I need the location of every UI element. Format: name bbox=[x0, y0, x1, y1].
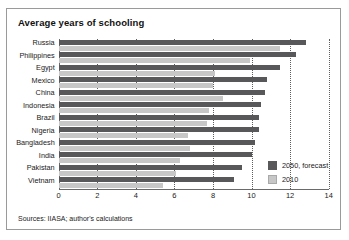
bar-row: China bbox=[59, 89, 329, 102]
bar-forecast-china bbox=[59, 90, 265, 95]
y-axis-label-indonesia: Indonesia bbox=[23, 101, 55, 110]
bar-baseline-bangladesh bbox=[59, 146, 190, 151]
y-axis-label-brazil: Brazil bbox=[36, 113, 54, 122]
bar-baseline-brazil bbox=[59, 121, 208, 126]
y-axis-label-russia: Russia bbox=[32, 38, 54, 47]
chart-figure: Average years of schooling RussiaPhilipp… bbox=[6, 8, 341, 230]
bar-row: Mexico bbox=[59, 77, 329, 90]
page-title: Average years of schooling bbox=[18, 17, 144, 28]
bar-forecast-russia bbox=[59, 40, 306, 45]
x-tick-label-0: 0 bbox=[57, 191, 61, 200]
x-tick-label-12: 12 bbox=[286, 191, 294, 200]
x-tick-label-2: 2 bbox=[95, 191, 99, 200]
legend-swatch-forecast-icon bbox=[268, 161, 277, 170]
bar-forecast-egypt bbox=[59, 65, 281, 70]
bar-baseline-pakistan bbox=[59, 171, 177, 176]
bar-forecast-bangladesh bbox=[59, 140, 256, 145]
y-axis-label-egypt: Egypt bbox=[36, 63, 55, 72]
bar-baseline-egypt bbox=[59, 71, 215, 76]
y-axis-label-bangladesh: Bangladesh bbox=[16, 138, 55, 147]
bar-row: Nigeria bbox=[59, 127, 329, 140]
bar-row: Bangladesh bbox=[59, 139, 329, 152]
bar-baseline-vietnam bbox=[59, 183, 163, 188]
bar-row: Egypt bbox=[59, 64, 329, 77]
bar-forecast-philippines bbox=[59, 52, 296, 57]
bar-row: Russia bbox=[59, 39, 329, 52]
legend-label-baseline: 2010 bbox=[282, 175, 298, 184]
bar-forecast-pakistan bbox=[59, 165, 242, 170]
x-tick-label-4: 4 bbox=[134, 191, 138, 200]
x-tick-label-14: 14 bbox=[325, 191, 333, 200]
bar-forecast-brazil bbox=[59, 115, 260, 120]
bar-baseline-mexico bbox=[59, 83, 213, 88]
x-tick-label-6: 6 bbox=[172, 191, 176, 200]
y-axis-label-india: India bbox=[39, 151, 55, 160]
bar-forecast-indonesia bbox=[59, 102, 262, 107]
x-axis-line bbox=[59, 189, 329, 190]
bar-row: Indonesia bbox=[59, 102, 329, 115]
bar-baseline-india bbox=[59, 158, 181, 163]
bar-baseline-russia bbox=[59, 46, 281, 51]
y-axis-label-pakistan: Pakistan bbox=[27, 163, 55, 172]
bar-row: Brazil bbox=[59, 114, 329, 127]
bar-forecast-vietnam bbox=[59, 177, 235, 182]
y-axis-label-vietnam: Vietnam bbox=[28, 176, 55, 185]
bar-baseline-nigeria bbox=[59, 133, 188, 138]
legend-item-baseline: 2010 bbox=[268, 175, 338, 184]
bar-forecast-nigeria bbox=[59, 127, 260, 132]
chart-legend: 2050, forecast 2010 bbox=[268, 161, 338, 189]
y-axis-label-china: China bbox=[36, 88, 55, 97]
scan-edge-artifact bbox=[0, 0, 349, 6]
legend-item-forecast: 2050, forecast bbox=[268, 161, 338, 170]
legend-label-forecast: 2050, forecast bbox=[282, 161, 328, 170]
y-axis-label-nigeria: Nigeria bbox=[32, 126, 55, 135]
x-tick-label-8: 8 bbox=[211, 191, 215, 200]
bar-baseline-philippines bbox=[59, 58, 250, 63]
y-axis-label-philippines: Philippines bbox=[19, 51, 54, 60]
bar-forecast-mexico bbox=[59, 77, 267, 82]
x-axis-ticks: 02468101214 bbox=[59, 191, 329, 203]
y-axis-label-mexico: Mexico bbox=[32, 76, 55, 85]
bar-baseline-indonesia bbox=[59, 108, 209, 113]
bar-row: Philippines bbox=[59, 52, 329, 65]
legend-swatch-baseline-icon bbox=[268, 175, 277, 184]
bar-baseline-china bbox=[59, 96, 223, 101]
x-tick-label-10: 10 bbox=[247, 191, 255, 200]
bar-forecast-india bbox=[59, 152, 252, 157]
source-note: Sources: IIASA; author's calculations bbox=[18, 215, 133, 222]
